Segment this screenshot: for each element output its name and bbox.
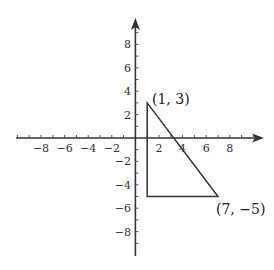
y-tick-label: −4 [115, 179, 131, 192]
y-tick-label: 2 [124, 109, 131, 122]
vertex-label-top: (1, 3) [152, 91, 190, 107]
vertex-label-bottom-right: (7, −5) [216, 201, 265, 217]
y-tick-label: −2 [115, 155, 131, 168]
y-tick-label: 6 [124, 62, 131, 75]
x-tick-label: −6 [56, 142, 72, 155]
coordinate-plane: −8 −6 −4 −2 2 4 6 8 [0, 0, 274, 270]
y-tick-label: −8 [115, 226, 131, 239]
y-tick-label: −6 [115, 202, 131, 215]
x-tick-label: 6 [203, 142, 210, 155]
y-axis: 8 6 4 2 −2 −4 −6 −8 [115, 18, 140, 256]
x-tick-label: −2 [104, 142, 120, 155]
x-axis: −8 −6 −4 −2 2 4 6 8 [16, 134, 264, 156]
y-tick-label: 4 [124, 85, 131, 98]
x-tick-label: 2 [156, 142, 163, 155]
x-tick-label: −8 [33, 142, 49, 155]
x-tick-label: −4 [80, 142, 96, 155]
x-tick-label: 8 [226, 142, 233, 155]
x-axis-tick-labels: −8 −6 −4 −2 2 4 6 8 [33, 142, 233, 155]
y-tick-label: 8 [124, 38, 131, 51]
